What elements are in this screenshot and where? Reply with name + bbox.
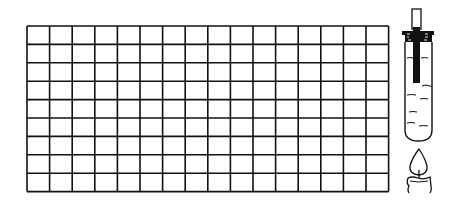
rod-icon: [412, 9, 421, 83]
heating-apparatus: [0, 0, 456, 202]
candle-icon: [407, 149, 431, 193]
stopper-icon: [402, 30, 434, 43]
